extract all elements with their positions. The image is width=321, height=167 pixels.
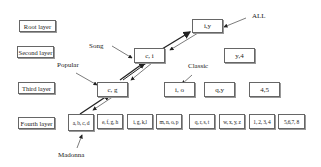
fourth-node-igkl: i, g, k,l	[127, 114, 153, 129]
fourth-node-efgh: e, f, g, h	[97, 114, 123, 129]
fourth-node-5678: 5,6,7, 8	[278, 114, 305, 129]
annotation-classic: Classic	[188, 62, 208, 70]
fourth-node-1234: 1, 2, 3, 4	[249, 114, 275, 129]
third-node-45: 4,5	[249, 82, 280, 97]
third-node-io: i, o	[164, 82, 195, 97]
annotation-madonna: Madonna	[58, 151, 84, 159]
third-node-cg: c, g	[97, 82, 128, 97]
second-node-y4: y,4	[224, 48, 255, 63]
layer-label-root: Root layer	[19, 20, 56, 32]
fourth-node-mnop: m, n, o, p	[156, 114, 182, 129]
layer-label-second: Second layer	[17, 46, 54, 58]
root-node-iy: i,y	[192, 19, 223, 33]
second-node-ci: c, i	[134, 48, 165, 63]
layer-label-third: Third layer	[18, 82, 55, 94]
third-node-qy: q,y	[204, 82, 235, 97]
annotation-popular: Popular	[57, 61, 79, 69]
fourth-node-qrst: q, r, s, t	[189, 114, 215, 129]
annotation-song: Song	[89, 42, 103, 50]
annotation-all: ALL	[252, 12, 266, 20]
fourth-node-abcd: a, b, c, d	[68, 114, 94, 131]
fourth-node-wxyz: w, x, y, z	[219, 114, 245, 129]
layer-label-fourth: Fourth layer	[18, 117, 55, 129]
